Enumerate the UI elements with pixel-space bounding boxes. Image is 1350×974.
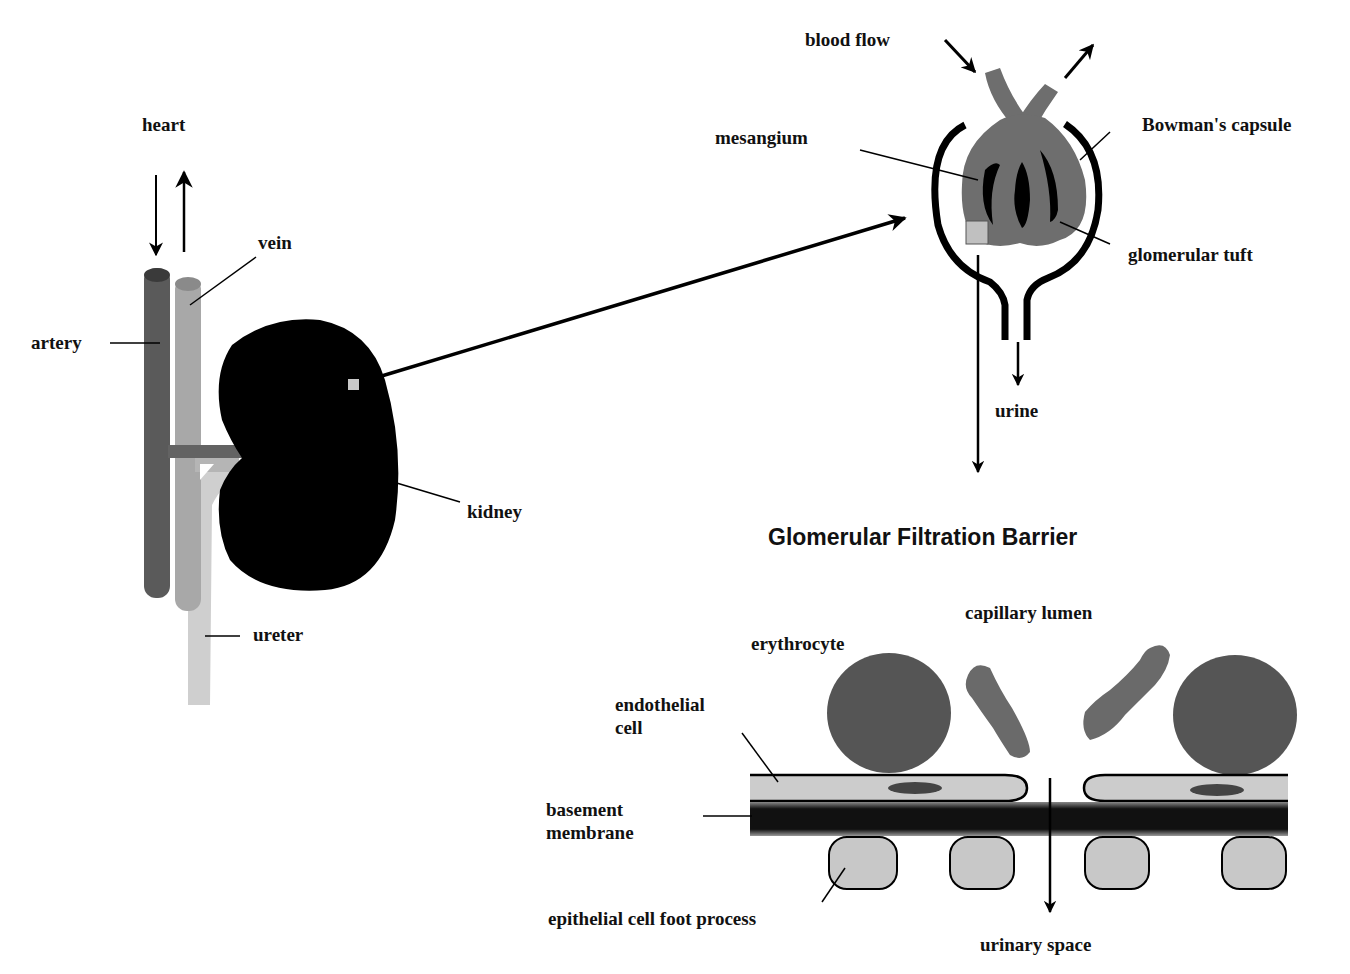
label-mesangium: mesangium (715, 127, 808, 149)
sample-square (348, 379, 359, 390)
label-blood-flow: blood flow (805, 29, 890, 51)
label-vein: vein (258, 232, 292, 254)
blood-out-arrow-icon (1065, 45, 1093, 78)
foot-process-2 (950, 837, 1014, 889)
barrier-sample-square (966, 221, 988, 244)
label-kidney: kidney (467, 501, 522, 523)
label-basement-line1: basement (546, 799, 623, 821)
label-endothelial-line2: cell (615, 717, 642, 739)
barrier-title: Glomerular Filtration Barrier (768, 524, 1077, 551)
erythrocyte-left (827, 653, 951, 773)
platelet-right (1083, 645, 1170, 740)
label-endothelial-line1: endothelial (615, 694, 705, 716)
label-heart: heart (142, 114, 185, 136)
label-capillary-lumen: capillary lumen (965, 602, 1092, 624)
label-artery: artery (31, 332, 82, 354)
basement-membrane-shape (750, 802, 1288, 836)
filtration-barrier-diagram (703, 645, 1297, 912)
platelet-left (966, 665, 1030, 758)
label-bowmans-capsule: Bowman's capsule (1142, 114, 1291, 136)
kidney-overview (110, 172, 905, 705)
endothelial-cell-right (1084, 775, 1288, 801)
erythrocyte-right (1173, 655, 1297, 775)
artery-shape (144, 268, 170, 598)
kidney-glomerulus-diagram (0, 0, 1350, 974)
vein-shape (175, 278, 201, 611)
label-urinary-space: urinary space (980, 934, 1091, 956)
foot-process-4 (1222, 837, 1286, 889)
label-glomerular-tuft: glomerular tuft (1128, 244, 1253, 266)
blood-in-arrow-icon (945, 40, 975, 72)
zoom-arrow-icon (375, 218, 905, 378)
kidney-shape (219, 319, 399, 590)
label-basement-line2: membrane (546, 822, 634, 844)
label-epithelial-foot-process: epithelial cell foot process (548, 908, 756, 930)
foot-process-3 (1085, 837, 1149, 889)
foot-process-1 (829, 837, 897, 889)
label-urine: urine (995, 400, 1038, 422)
label-erythrocyte: erythrocyte (751, 633, 845, 655)
glomerulus-diagram (860, 40, 1110, 472)
label-ureter: ureter (253, 624, 303, 646)
